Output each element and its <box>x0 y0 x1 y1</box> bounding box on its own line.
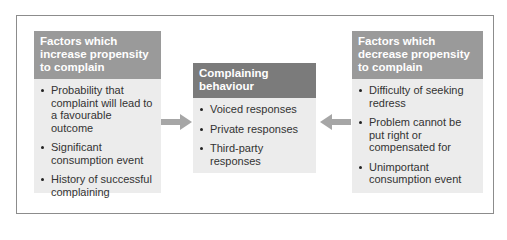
increase-factors-box: Factors which increase propensity to com… <box>34 31 161 193</box>
increase-factors-list: Probability that complaint will lead to … <box>34 79 161 209</box>
list-item: Problem cannot be put right or compensat… <box>358 116 477 154</box>
decrease-factors-list: Difficulty of seeking redress Problem ca… <box>352 79 483 197</box>
list-item: Voiced responses <box>199 103 310 116</box>
list-item: Significant consumption event <box>40 141 155 166</box>
complaining-behaviour-list: Voiced responses Private responses Third… <box>193 98 316 178</box>
list-item: Private responses <box>199 123 310 136</box>
increase-factors-title: Factors which increase propensity to com… <box>34 31 161 79</box>
decrease-factors-box: Factors which decrease propensity to com… <box>352 31 483 193</box>
complaining-behaviour-title: Complaining behaviour <box>193 63 316 98</box>
list-item: Unimportant consumption event <box>358 161 477 186</box>
arrow-right-icon <box>161 114 193 130</box>
complaining-behaviour-box: Complaining behaviour Voiced responses P… <box>193 63 316 173</box>
list-item: History of successful complaining <box>40 173 155 198</box>
decrease-factors-title: Factors which decrease propensity to com… <box>352 31 483 79</box>
arrow-left-icon <box>319 114 351 130</box>
list-item: Third-party responses <box>199 142 310 167</box>
list-item: Difficulty of seeking redress <box>358 84 477 109</box>
list-item: Probability that complaint will lead to … <box>40 84 155 134</box>
